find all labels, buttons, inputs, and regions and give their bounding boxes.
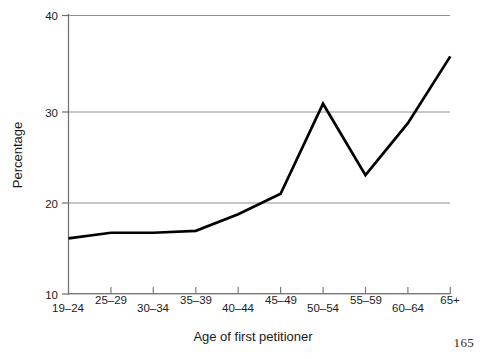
x-tick-label-9: 65+ xyxy=(440,294,460,306)
x-tick-label-3: 35–39 xyxy=(180,294,212,306)
figure-container: 40 30 20 10 19–24 25–29 30–34 35–39 40–4… xyxy=(0,0,498,359)
x-tick-label-1: 25–29 xyxy=(95,294,127,306)
gridlines xyxy=(68,16,450,295)
x-tick-label-2: 30–34 xyxy=(137,302,170,314)
y-tick-label-10: 10 xyxy=(45,289,58,301)
x-tick-label-7: 55–59 xyxy=(350,294,382,306)
x-tick-label-8: 60–64 xyxy=(392,302,425,314)
page-number: 165 xyxy=(454,335,474,351)
x-tick-label-6: 50–54 xyxy=(307,302,340,314)
y-tick-marks xyxy=(62,16,68,295)
x-tick-labels: 19–24 25–29 30–34 35–39 40–44 45–49 50–5… xyxy=(52,294,460,314)
data-series-line xyxy=(69,56,451,238)
y-tick-label-30: 30 xyxy=(45,107,58,119)
y-tick-label-20: 20 xyxy=(45,198,58,210)
x-tick-label-5: 45–49 xyxy=(265,294,297,306)
y-tick-labels: 40 30 20 10 xyxy=(45,10,58,301)
x-tick-label-4: 40–44 xyxy=(222,302,255,314)
x-axis-title: Age of first petitioner xyxy=(193,329,313,344)
y-tick-label-40: 40 xyxy=(45,10,58,22)
x-tick-label-0: 19–24 xyxy=(52,302,85,314)
y-axis-title: Percentage xyxy=(10,122,25,189)
line-chart: 40 30 20 10 19–24 25–29 30–34 35–39 40–4… xyxy=(0,0,498,359)
